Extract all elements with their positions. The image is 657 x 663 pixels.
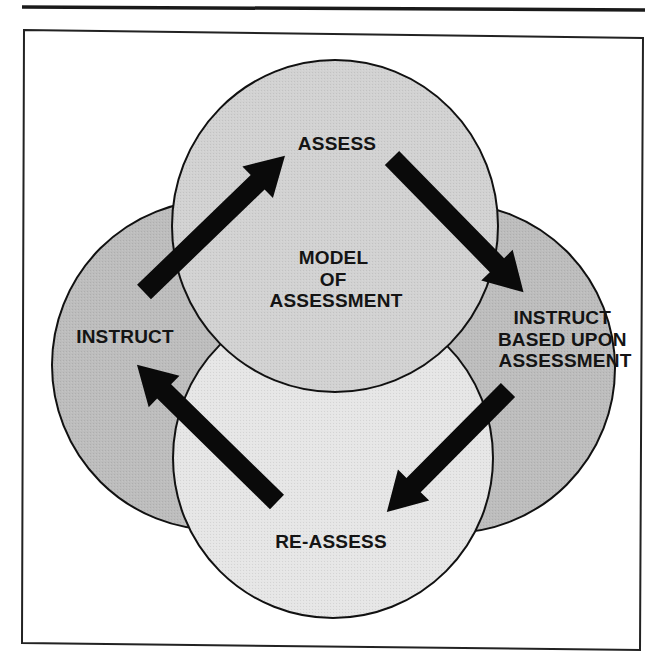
label-assess: ASSESS xyxy=(298,133,376,154)
top-rule xyxy=(22,7,645,10)
label-instruct-based-upon-assessment: INSTRUCT BASED UPON ASSESSMENT xyxy=(498,307,632,371)
model-of-assessment-diagram: ASSESS MODEL OF ASSESSMENT INSTRUCT INST… xyxy=(0,0,657,663)
label-instruct: INSTRUCT xyxy=(76,326,174,347)
label-re-assess: RE-ASSESS xyxy=(275,531,387,552)
